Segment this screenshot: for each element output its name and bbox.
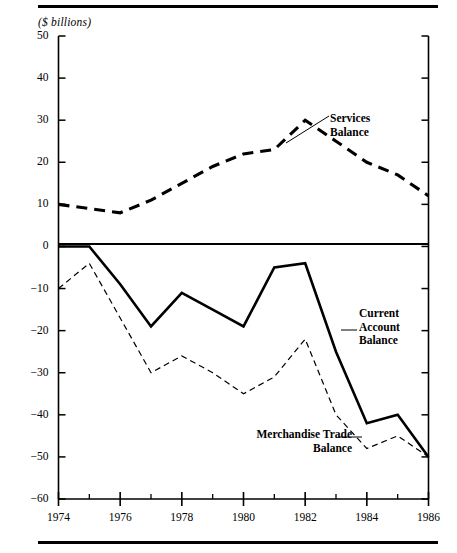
y-tick-label: 40 [21, 72, 49, 84]
x-tick-label: 1980 [224, 512, 264, 524]
x-tick-label: 1986 [409, 512, 449, 524]
series-line-services-balance [59, 120, 429, 213]
series-label-services-balance: Services Balance [330, 112, 370, 139]
series-line-current-account-balance [59, 247, 429, 457]
y-tick-label: −50 [21, 451, 49, 463]
x-tick-label: 1974 [39, 512, 79, 524]
line-chart-plot [0, 0, 457, 553]
series-label-current-account-balance: Current Account Balance [359, 307, 400, 348]
figure-page: ($ billions) 50403020100−10−20−30−40−50−… [0, 0, 457, 553]
series-label-merchandise-trade-balance: Merchandise Trade Balance [222, 428, 352, 455]
x-tick-label: 1984 [347, 512, 387, 524]
x-tick-label: 1982 [285, 512, 325, 524]
y-tick-label: −20 [21, 325, 49, 337]
y-tick-label: −60 [21, 493, 49, 505]
y-tick-label: 30 [21, 114, 49, 126]
x-tick-label: 1976 [100, 512, 140, 524]
x-tick-label: 1978 [162, 512, 202, 524]
y-tick-label: −40 [21, 409, 49, 421]
y-tick-label: 0 [21, 240, 49, 252]
y-tick-label: 50 [21, 30, 49, 42]
y-axis-ticks-right [422, 36, 429, 499]
y-tick-label: −30 [21, 367, 49, 379]
y-axis-ticks-left [59, 36, 66, 499]
y-tick-label: 10 [21, 198, 49, 210]
y-tick-label: 20 [21, 156, 49, 168]
y-tick-label: −10 [21, 283, 49, 295]
